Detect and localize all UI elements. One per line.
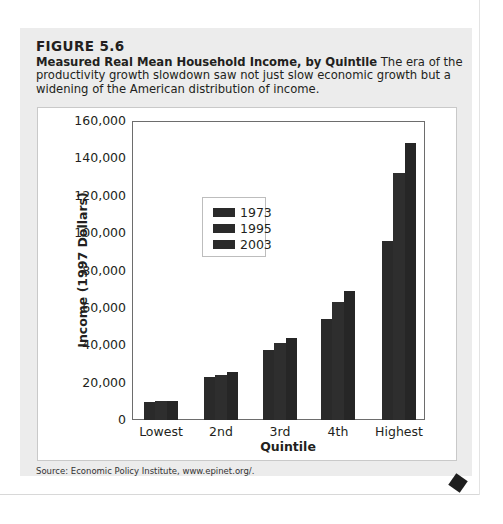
bar-3rd-2003 [286, 338, 298, 420]
legend-swatch [213, 240, 235, 249]
x-tick-label: Highest [364, 424, 434, 439]
bar-2nd-1973 [204, 377, 216, 420]
legend-item-1995: 1995 [213, 220, 272, 236]
bar-highest-1995 [393, 173, 405, 420]
legend-label: 1995 [240, 221, 272, 236]
source-note: Source: Economic Policy Institute, www.e… [36, 466, 254, 476]
y-axis-label: Income (1997 Dollars) [75, 192, 90, 348]
figure-title: Measured Real Mean Household Income, by … [36, 55, 377, 69]
x-tick-label: 4th [303, 424, 373, 439]
y-tick-label: 100,000 [56, 225, 126, 240]
y-tick-label: 80,000 [56, 263, 126, 278]
bar-3rd-1995 [274, 343, 286, 420]
bar-lowest-1995 [155, 401, 167, 420]
y-tick-label: 60,000 [56, 300, 126, 315]
legend-item-1973: 1973 [213, 204, 272, 220]
bar-4th-1995 [332, 302, 344, 420]
bar-4th-1973 [321, 319, 333, 420]
bar-4th-2003 [344, 291, 356, 420]
legend-label: 2003 [240, 237, 272, 252]
y-tick-label: 20,000 [56, 375, 126, 390]
y-tick-label: 140,000 [56, 150, 126, 165]
x-axis-label: Quintile [248, 439, 328, 454]
bar-lowest-2003 [167, 401, 179, 420]
y-tick-label: 0 [56, 412, 126, 427]
bar-highest-1973 [382, 241, 394, 420]
legend-swatch [213, 208, 235, 217]
figure-caption: Measured Real Mean Household Income, by … [36, 56, 468, 96]
legend-label: 1973 [240, 205, 272, 220]
y-tick-label: 160,000 [56, 113, 126, 128]
bar-2nd-2003 [227, 372, 239, 420]
diamond-icon [448, 473, 467, 492]
bar-highest-2003 [405, 143, 417, 420]
page-right-edge [479, 0, 480, 495]
figure-label: FIGURE 5.6 [36, 38, 125, 54]
page-bottom-edge [0, 494, 479, 495]
legend-item-2003: 2003 [213, 236, 272, 252]
bar-lowest-1973 [144, 402, 156, 420]
legend-swatch [213, 224, 235, 233]
bar-3rd-1973 [263, 350, 275, 420]
chart-legend: 1973 1995 2003 [202, 197, 266, 257]
y-tick-label: 40,000 [56, 337, 126, 352]
y-tick-label: 120,000 [56, 188, 126, 203]
bar-2nd-1995 [215, 375, 227, 420]
